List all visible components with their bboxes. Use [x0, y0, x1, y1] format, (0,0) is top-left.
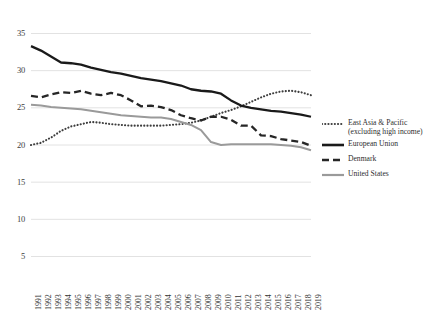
legend-item[interactable]: East Asia & Pacific (excluding high inco…: [322, 118, 436, 137]
x-axis-tick-label: 2012: [244, 294, 253, 310]
x-axis-tick-label: 2014: [264, 294, 273, 310]
solid-black-line-key: [322, 140, 344, 152]
line-chart: 3530252015105 19911992199319941995199619…: [0, 0, 438, 314]
x-axis-tick-label: 2008: [204, 294, 213, 310]
y-axis-tick-label: 35: [3, 28, 25, 38]
x-axis-tick-label: 1996: [84, 294, 93, 310]
x-axis-tick-label: 2004: [164, 294, 173, 310]
series-line: [31, 91, 311, 145]
dashed-line-key: [322, 155, 344, 167]
legend-item-label: United States: [348, 169, 389, 178]
x-axis-tick-label: 2017: [294, 294, 303, 310]
x-axis-tick-label: 2003: [154, 294, 163, 310]
x-axis-tick-label: 2000: [124, 294, 133, 310]
legend-item[interactable]: Denmark: [322, 154, 436, 167]
y-axis-tick-label: 15: [3, 177, 25, 187]
x-axis-tick-label: 1995: [74, 294, 83, 310]
x-axis-tick-label: 2007: [194, 294, 203, 310]
x-axis-tick-label: 2002: [144, 294, 153, 310]
legend-item-label: East Asia & Pacific (excluding high inco…: [348, 118, 436, 137]
x-axis-tick-label: 1999: [114, 294, 123, 310]
legend-item-label: Denmark: [348, 154, 376, 163]
x-axis-tick-label: 1998: [104, 294, 113, 310]
x-axis-tick-label: 2013: [254, 294, 263, 310]
x-axis-tick-label: 1997: [94, 294, 103, 310]
y-axis-tick-label: 10: [3, 214, 25, 224]
x-axis-tick-label: 1991: [34, 294, 43, 310]
solid-gray-line-key: [322, 170, 344, 182]
legend-item-label: European Union: [348, 139, 398, 148]
legend-item[interactable]: European Union: [322, 139, 436, 152]
y-axis-tick-label: 30: [3, 65, 25, 75]
x-axis-tick-label: 2001: [134, 294, 143, 310]
y-axis-tick-label: 20: [3, 140, 25, 150]
y-axis-tick-label: 25: [3, 102, 25, 112]
y-axis-tick-label: 5: [3, 251, 25, 261]
x-axis-tick-label: 2005: [174, 294, 183, 310]
x-axis-tick-label: 1994: [64, 294, 73, 310]
x-axis-tick-label: 2016: [284, 294, 293, 310]
chart-legend: East Asia & Pacific (excluding high inco…: [322, 118, 436, 184]
series-line: [31, 46, 311, 117]
x-axis-tick-label: 2015: [274, 294, 283, 310]
x-axis-tick-label: 2018: [304, 294, 313, 310]
legend-item[interactable]: United States: [322, 169, 436, 182]
x-axis-tick-label: 1993: [54, 294, 63, 310]
x-axis-tick-label: 2010: [224, 294, 233, 310]
x-axis-tick-label: 1992: [44, 294, 53, 310]
x-axis-tick-label: 2011: [234, 295, 243, 310]
series-lines: [31, 46, 311, 150]
dotted-line-key: [322, 119, 344, 131]
x-axis-tick-label: 2009: [214, 294, 223, 310]
x-axis-tick-label: 2006: [184, 294, 193, 310]
x-axis-tick-label: 2019: [314, 294, 323, 310]
